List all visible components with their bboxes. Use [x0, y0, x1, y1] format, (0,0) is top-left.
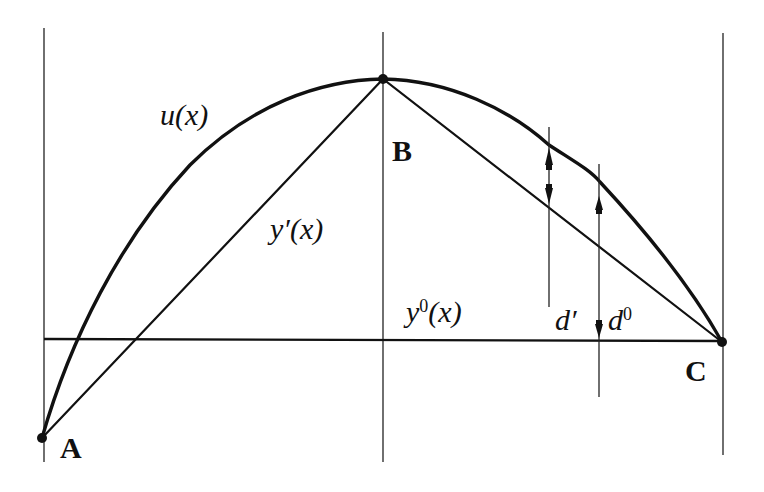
- y-prime-line: [42, 79, 722, 438]
- d-prime-arrow-up: [545, 148, 553, 165]
- u-curve-label: u(x): [160, 100, 208, 130]
- d-prime-arrow-down: [545, 188, 553, 204]
- point-a-label: A: [60, 433, 82, 463]
- y0-line: [44, 339, 722, 341]
- point-b-dot: [378, 74, 388, 84]
- d-zero-label: d0: [608, 305, 632, 335]
- point-b-label: B: [392, 136, 412, 166]
- d-prime-label: d′: [555, 305, 577, 335]
- u-curve: [42, 79, 722, 438]
- point-c-label: C: [685, 356, 707, 386]
- point-c-dot: [717, 337, 727, 347]
- y-prime-label: y′(x): [270, 214, 323, 244]
- diagram-canvas: u(x) y′(x) y0(x) d′ d0 A B C: [0, 0, 764, 492]
- y-zero-label: y0(x): [406, 297, 462, 327]
- d-prime-arrow-down-tail: [546, 184, 552, 190]
- d-zero-arrow-down-tail: [596, 320, 602, 326]
- d-prime-arrow-up-tail: [546, 163, 552, 170]
- d-zero-arrow-up: [595, 196, 603, 210]
- point-a-dot: [37, 433, 47, 443]
- diagram-graphics: [0, 0, 764, 492]
- d-zero-arrow-up-tail: [596, 208, 602, 214]
- d-zero-arrow-down: [595, 324, 603, 338]
